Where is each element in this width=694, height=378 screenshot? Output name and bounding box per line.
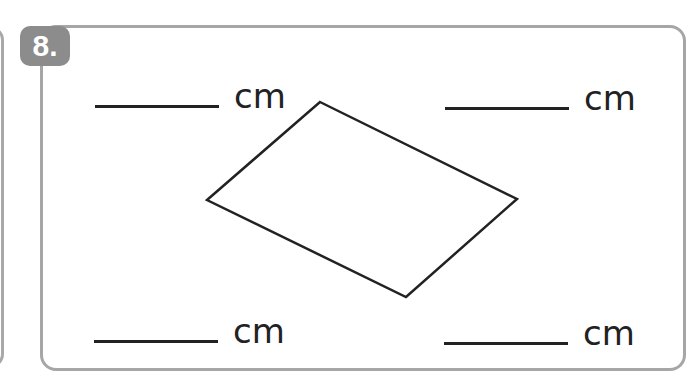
unit-label: cm xyxy=(234,78,286,114)
answer-top-right: cm xyxy=(445,80,636,116)
answer-blank-bottom-right[interactable] xyxy=(444,342,568,345)
unit-label: cm xyxy=(233,313,285,349)
answer-blank-top-left[interactable] xyxy=(95,105,219,108)
unit-label: cm xyxy=(583,315,635,351)
answer-blank-top-right[interactable] xyxy=(445,107,569,110)
answer-bottom-right: cm xyxy=(444,315,635,351)
answer-bottom-left: cm xyxy=(94,313,285,349)
answer-top-left: cm xyxy=(95,78,286,114)
unit-label: cm xyxy=(584,80,636,116)
answer-blank-bottom-left[interactable] xyxy=(94,340,218,343)
